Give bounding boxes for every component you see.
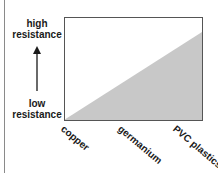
y-label-low: low resistance — [6, 98, 68, 120]
y-label-high: high resistance — [6, 18, 68, 40]
y-label-high-line1: high — [6, 18, 68, 29]
x-label-copper: copper — [59, 123, 92, 153]
y-label-high-line2: resistance — [6, 29, 68, 40]
x-label-pvc-plastics: PVC plastics — [171, 123, 218, 170]
resistance-area — [64, 32, 202, 120]
x-label-germanium: germanium — [116, 123, 164, 166]
left-margin-rule — [4, 0, 5, 173]
y-label-low-line2: resistance — [6, 109, 68, 120]
arrow-up-icon — [30, 46, 44, 92]
plot-area — [64, 17, 203, 121]
y-label-low-line1: low — [6, 98, 68, 109]
